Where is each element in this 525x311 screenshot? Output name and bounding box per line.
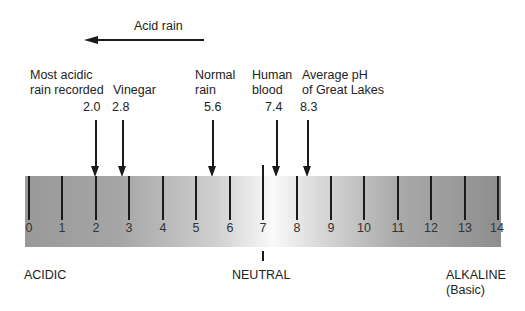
tick-label: 9 [319, 221, 343, 235]
tick-label: 6 [218, 221, 242, 235]
alkaline-label: ALKALINE (Basic) [446, 268, 506, 298]
tick-label: 10 [352, 221, 376, 235]
acidic-label: ACIDIC [24, 268, 66, 283]
marker-value-human-blood: 7.4 [265, 100, 282, 115]
tick-label: 14 [485, 221, 509, 235]
acid-rain-label: Acid rain [134, 19, 183, 34]
neutral-label: NEUTRAL [232, 268, 290, 283]
acid-rain-arrow [84, 36, 204, 44]
marker-value-normal-rain: 5.6 [204, 100, 221, 115]
neutral-tick-below [262, 251, 264, 261]
tick-label: 5 [184, 221, 208, 235]
neutral-tick [262, 165, 264, 220]
tick-label: 13 [453, 221, 477, 235]
tick-label: 8 [285, 221, 309, 235]
tick-label: 3 [117, 221, 141, 235]
marker-value-most-acidic: 2.0 [83, 100, 100, 115]
tick-label: 1 [50, 221, 74, 235]
tick-label: 11 [386, 221, 410, 235]
tick-label: 2 [84, 221, 108, 235]
marker-label-most-acidic: Most acidic rain recorded [30, 68, 104, 98]
tick-label: 7 [251, 221, 275, 235]
marker-label-vinegar: Vinegar [113, 83, 156, 98]
marker-label-normal-rain: Normal rain [195, 68, 235, 98]
marker-label-great-lakes: Average pH of Great Lakes [302, 68, 384, 98]
marker-value-great-lakes: 8.3 [300, 100, 317, 115]
tick-label: 0 [17, 221, 41, 235]
marker-value-vinegar: 2.8 [112, 100, 129, 115]
tick-label: 12 [419, 221, 443, 235]
marker-label-human-blood: Human blood [252, 68, 292, 98]
tick-label: 4 [151, 221, 175, 235]
